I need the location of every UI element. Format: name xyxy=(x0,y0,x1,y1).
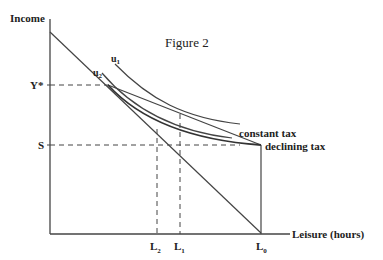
y-axis-label: Income xyxy=(10,12,45,24)
x-tick-l2: L2 xyxy=(150,240,161,255)
declining-tax-label: declining tax xyxy=(265,140,326,152)
u1-label: u1 xyxy=(111,53,121,66)
y-tick-ystar: Y* xyxy=(30,79,44,91)
svg-text:u1: u1 xyxy=(111,53,121,66)
x-axis-label: Leisure (hours) xyxy=(292,228,365,241)
y-tick-s: S xyxy=(38,139,44,151)
figure-2-diagram: Income Leisure (hours) Figure 2 Y* S L2 … xyxy=(0,0,383,260)
indifference-curve-u1 xyxy=(115,64,240,124)
constant-tax-label: constant tax xyxy=(239,127,297,139)
svg-text:u2: u2 xyxy=(93,67,103,80)
svg-text:L0: L0 xyxy=(256,240,267,255)
x-tick-l1: L1 xyxy=(174,240,185,255)
x-tick-l0: L0 xyxy=(256,240,267,255)
svg-text:L1: L1 xyxy=(174,240,185,255)
figure-title: Figure 2 xyxy=(165,35,209,50)
indifference-curve-u2 xyxy=(102,73,232,138)
svg-text:L2: L2 xyxy=(150,240,161,255)
u2-label: u2 xyxy=(93,67,103,80)
